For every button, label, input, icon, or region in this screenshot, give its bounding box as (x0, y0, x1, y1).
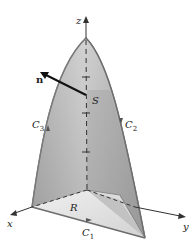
curve-c1-label: C1 (82, 227, 94, 241)
normal-label: n (36, 74, 44, 85)
region-label: R (69, 202, 78, 213)
curve-c3-label: C3 (32, 119, 44, 133)
y-axis-label: y (182, 221, 189, 232)
x-axis-label: x (7, 218, 13, 229)
curve-c2-label: C2 (125, 119, 137, 133)
z-arrowhead-icon (83, 16, 89, 23)
surface-diagram: z x y n S R C1 C2 C3 (0, 0, 195, 246)
y-arrowhead-icon (178, 213, 186, 219)
x-arrowhead-icon (10, 210, 17, 216)
z-axis-label: z (75, 15, 82, 26)
surface-label: S (92, 95, 99, 106)
